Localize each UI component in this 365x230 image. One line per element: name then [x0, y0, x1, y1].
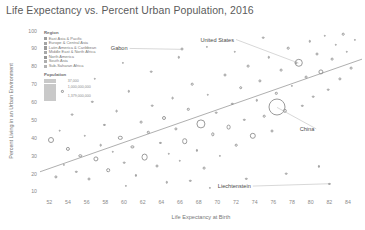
x-axis-tick-70: 70	[214, 199, 220, 205]
x-axis-tick-80: 80	[308, 199, 314, 205]
legend-population-swatch	[44, 79, 56, 83]
annotation-liechtenstein: Liechtenstein	[218, 183, 253, 189]
y-axis-tick-50: 50	[31, 117, 37, 123]
x-axis-tick-62: 62	[140, 199, 146, 205]
y-axis-tick-40: 40	[31, 135, 37, 141]
x-axis-tick-54: 54	[65, 199, 71, 205]
x-axis-tick-68: 68	[196, 199, 202, 205]
chart-container: Life Expectancy vs. Percent Urban Popula…	[0, 0, 365, 230]
y-axis-tick-90: 90	[31, 45, 37, 51]
legend-population-label: 1,379,000,000	[68, 94, 91, 98]
legend-population-swatch	[44, 91, 56, 101]
x-axis-tick-52: 52	[46, 199, 52, 205]
x-axis-tick-64: 64	[158, 199, 164, 205]
legend-swatch-icon	[44, 60, 47, 63]
legend-item-region[interactable]: Sub-Saharan Africa	[44, 64, 106, 69]
legend-swatch-icon	[44, 46, 47, 49]
y-axis-label: Percent Living in an Urban Environment	[6, 27, 16, 195]
y-axis-tick-80: 80	[31, 63, 37, 69]
legend-swatch-icon	[44, 56, 47, 59]
page-title: Life Expectancy vs. Percent Urban Popula…	[6, 4, 254, 16]
x-axis-tick-58: 58	[102, 199, 108, 205]
y-axis-tick-60: 60	[31, 99, 37, 105]
legend-population-swatch	[44, 84, 56, 91]
x-axis-label: Life Expectancy at Birth	[40, 214, 362, 220]
legend-region-list: East Asia & PacificEurope & Central Asia…	[44, 37, 106, 69]
x-axis-tick-76: 76	[270, 199, 276, 205]
legend-item-label: Sub-Saharan Africa	[49, 64, 84, 69]
annotation-united-states: United States	[200, 37, 236, 43]
y-axis-tick-20: 20	[31, 171, 37, 177]
x-axis-tick-56: 56	[84, 199, 90, 205]
legend-population-label: 37,000	[68, 79, 79, 83]
x-axis-tick-72: 72	[233, 199, 239, 205]
legend-population-title: Population	[44, 72, 106, 77]
x-axis-tick-82: 82	[326, 199, 332, 205]
x-axis-tick-78: 78	[289, 199, 295, 205]
legend-swatch-icon	[44, 37, 47, 40]
x-axis-tick-60: 60	[121, 199, 127, 205]
legend: Region East Asia & PacificEurope & Centr…	[44, 30, 106, 93]
legend-population-rows: 37,0001,000,000,0001,379,000,000	[44, 78, 106, 93]
y-axis-tick-30: 30	[31, 153, 37, 159]
legend-population-label: 1,000,000,000	[68, 85, 91, 89]
annotation-gabon: Gabon	[111, 45, 130, 51]
y-axis-tick-10: 10	[31, 188, 37, 194]
y-axis-tick-70: 70	[31, 81, 37, 87]
x-axis-tick-74: 74	[252, 199, 258, 205]
legend-region-title: Region	[44, 30, 106, 35]
legend-population: Population 37,0001,000,000,0001,379,000,…	[44, 72, 106, 94]
annotation-china: China	[300, 126, 317, 132]
x-axis-tick-84: 84	[345, 199, 351, 205]
legend-swatch-icon	[44, 51, 47, 54]
legend-swatch-icon	[44, 65, 47, 68]
x-axis-tick-66: 66	[177, 199, 183, 205]
legend-swatch-icon	[44, 42, 47, 45]
y-axis-tick-100: 100	[28, 28, 37, 34]
